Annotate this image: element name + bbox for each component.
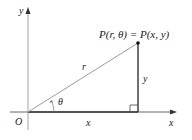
theta-arc-arrow-icon (50, 100, 54, 103)
theta-label: θ (58, 96, 63, 107)
theta-arc (52, 101, 55, 112)
radius-line-r (28, 43, 138, 112)
vertical-leg-label: y (142, 73, 148, 84)
polar-coordinates-diagram: P(r, θ) = P(x, y) r θ y x O x y (0, 0, 192, 140)
y-axis-arrow-icon (26, 7, 31, 14)
right-angle-marker (130, 105, 138, 112)
x-axis-arrow-icon (170, 110, 177, 115)
y-axis-label: y (18, 5, 24, 16)
origin-label: O (15, 116, 22, 127)
point-p-label: P(r, θ) = P(x, y) (98, 28, 170, 41)
x-axis-label: x (168, 117, 174, 128)
point-p (136, 41, 140, 45)
radius-label: r (82, 61, 86, 72)
horizontal-leg-label: x (85, 117, 91, 128)
